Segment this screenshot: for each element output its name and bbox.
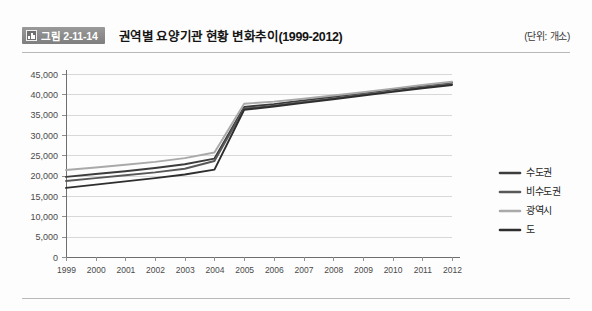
unit-note: (단위: 개소) [524,28,570,43]
x-axis-label: 2007 [295,265,314,275]
bar-chart-icon [26,30,37,41]
figure-title: 권역별 요양기관 현황 변화추이(1999-2012) [119,26,343,45]
x-axis-label: 2005 [235,265,254,275]
legend-label-2: 비수도권 [526,186,561,197]
header-divider [22,52,570,53]
x-axis-label: 2001 [116,265,135,275]
y-axis-label: 5,000 [35,232,58,242]
figure-number-badge: 그림 2-11-14 [22,27,105,44]
x-axis-label: 2012 [443,265,462,275]
figure-page: 그림 2-11-14 권역별 요양기관 현황 변화추이(1999-2012) (… [0,0,592,311]
series-line-2 [66,84,452,181]
x-axis-label: 2003 [176,265,195,275]
y-axis-label: 25,000 [30,151,58,161]
y-axis-label: 40,000 [30,90,58,100]
x-axis-label: 1999 [57,265,76,275]
x-axis-label: 2004 [206,265,225,275]
y-axis-label: 45,000 [30,70,58,80]
y-axis-label: 0 [53,253,58,263]
figure-number-label: 그림 2-11-14 [41,28,98,43]
legend-label-3: 광역시 [526,205,552,216]
chart-container: 05,00010,00015,00020,00025,00030,00035,0… [0,56,592,296]
x-axis-label: 2008 [324,265,343,275]
legend-label-1: 수도권 [526,167,552,178]
x-axis-label: 2011 [414,265,433,275]
y-axis-label: 10,000 [30,212,58,222]
y-axis-label: 20,000 [30,171,58,181]
figure-header: 그림 2-11-14 권역별 요양기관 현황 변화추이(1999-2012) (… [0,20,592,50]
legend-label-4: 도 [526,224,535,235]
x-axis-label: 2006 [265,265,284,275]
y-axis-label: 30,000 [30,131,58,141]
x-axis-label: 2010 [384,265,403,275]
x-axis-label: 2002 [146,265,165,275]
x-axis-label: 2009 [354,265,373,275]
y-axis-label: 15,000 [30,192,58,202]
series-line-4 [66,85,452,188]
y-axis-label: 35,000 [30,110,58,120]
x-axis-label: 2000 [87,265,106,275]
line-chart: 05,00010,00015,00020,00025,00030,00035,0… [0,56,592,296]
series-line-1 [66,83,452,177]
footer-divider [22,298,570,299]
